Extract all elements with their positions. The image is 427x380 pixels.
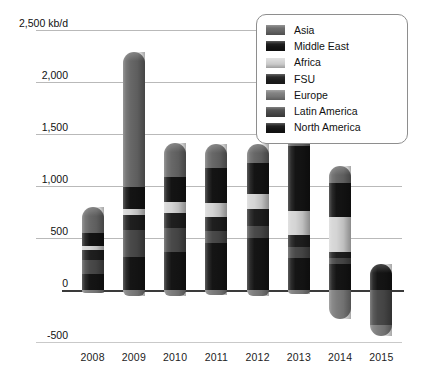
- y-tick-rule: [36, 134, 72, 135]
- legend-item-label: Latin America: [294, 106, 358, 117]
- bar-segment[interactable]: [164, 213, 186, 228]
- legend-swatch-icon: [266, 25, 285, 35]
- bar-segment[interactable]: [288, 235, 310, 247]
- bar-column[interactable]: [164, 30, 186, 342]
- bar-segment[interactable]: [247, 238, 269, 290]
- x-tick-label: 2014: [317, 351, 363, 363]
- bar-segment[interactable]: [82, 274, 104, 290]
- x-tick-label: 2012: [235, 351, 281, 363]
- bar-segment[interactable]: [288, 258, 310, 290]
- bar-segment[interactable]: [247, 163, 269, 194]
- y-tick-label: 500: [2, 225, 68, 237]
- bar-column[interactable]: [123, 30, 145, 342]
- legend-swatch-icon: [266, 123, 285, 133]
- bar-segment[interactable]: [123, 257, 145, 290]
- bar-column[interactable]: [82, 30, 104, 342]
- bar-segment[interactable]: [123, 230, 145, 257]
- legend-item[interactable]: Africa: [266, 55, 398, 71]
- bar-segment[interactable]: [82, 260, 104, 275]
- legend-swatch-icon: [266, 107, 285, 117]
- bar-segment[interactable]: [329, 258, 351, 264]
- bar-segment[interactable]: [370, 264, 392, 290]
- bar-segment[interactable]: [329, 183, 351, 217]
- bar-segment[interactable]: [164, 177, 186, 202]
- legend-item[interactable]: Asia: [266, 22, 398, 38]
- y-tick-rule: [36, 82, 72, 83]
- bar-segment[interactable]: [247, 209, 269, 226]
- bar-segment-negative[interactable]: [123, 290, 145, 296]
- x-tick-label: 2010: [152, 351, 198, 363]
- legend-swatch-icon: [266, 90, 285, 100]
- bar-segment[interactable]: [247, 226, 269, 238]
- gridline: [72, 238, 402, 239]
- bar-segment[interactable]: [123, 52, 145, 187]
- bar-segment[interactable]: [123, 187, 145, 209]
- zero-axis-line: [62, 290, 404, 292]
- bar-segment[interactable]: [329, 217, 351, 251]
- legend-item-label: FSU: [294, 74, 315, 85]
- x-tick-label: 2015: [358, 351, 404, 363]
- y-tick-label: 0: [2, 277, 68, 289]
- bar-segment[interactable]: [82, 250, 104, 259]
- bar-segment-negative[interactable]: [247, 290, 269, 296]
- legend-swatch-icon: [266, 41, 285, 51]
- bar-segment[interactable]: [205, 144, 227, 168]
- y-tick-label: -500: [2, 329, 68, 341]
- bar-segment[interactable]: [205, 217, 227, 231]
- y-tick-label: 1,000: [2, 173, 68, 185]
- legend-item-label: Africa: [294, 57, 321, 68]
- legend-item-label: Asia: [294, 25, 314, 36]
- bar-segment[interactable]: [164, 202, 186, 213]
- x-tick-label: 2008: [70, 351, 116, 363]
- legend-item[interactable]: Europe: [266, 87, 398, 103]
- bar-segment[interactable]: [288, 211, 310, 235]
- x-tick-label: 2009: [111, 351, 157, 363]
- y-tick-label: 2,000: [2, 69, 68, 81]
- y-tick-rule: [36, 186, 72, 187]
- bar-segment[interactable]: [329, 252, 351, 258]
- bar-segment[interactable]: [82, 233, 104, 247]
- legend-swatch-icon: [266, 58, 285, 68]
- bar-segment[interactable]: [205, 168, 227, 202]
- bar-column[interactable]: [205, 30, 227, 342]
- x-tick-label: 2011: [193, 351, 239, 363]
- legend-item[interactable]: Latin America: [266, 103, 398, 119]
- bar-segment[interactable]: [329, 264, 351, 290]
- legend-item[interactable]: Middle East: [266, 38, 398, 54]
- bar-segment-negative[interactable]: [370, 325, 392, 335]
- legend-item[interactable]: FSU: [266, 71, 398, 87]
- bar-segment[interactable]: [164, 228, 186, 252]
- bar-segment[interactable]: [205, 243, 227, 290]
- x-tick-label: 2013: [276, 351, 322, 363]
- gridline: [36, 342, 402, 343]
- bar-segment[interactable]: [123, 215, 145, 230]
- bar-segment[interactable]: [329, 166, 351, 183]
- bar-segment-negative[interactable]: [288, 290, 310, 294]
- bar-segment[interactable]: [288, 247, 310, 257]
- bar-segment-negative[interactable]: [329, 290, 351, 319]
- bar-segment[interactable]: [205, 231, 227, 243]
- y-tick-label: 2,500 kb/d: [2, 17, 68, 29]
- y-tick-rule: [36, 238, 72, 239]
- bar-segment[interactable]: [247, 194, 269, 209]
- bar-segment[interactable]: [205, 203, 227, 218]
- gridline: [72, 186, 402, 187]
- y-tick-label: 1,500: [2, 121, 68, 133]
- bar-segment-negative[interactable]: [82, 290, 104, 293]
- bar-segment[interactable]: [82, 207, 104, 233]
- bar-segment-negative[interactable]: [205, 290, 227, 295]
- stacked-bar-chart: 2,500 kb/d2,0001,5001,0005000-500 200820…: [0, 0, 427, 380]
- bar-segment[interactable]: [247, 144, 269, 163]
- bar-segment[interactable]: [164, 252, 186, 290]
- bar-segment[interactable]: [288, 146, 310, 210]
- bar-segment[interactable]: [164, 143, 186, 176]
- legend-item-label: Europe: [294, 90, 328, 101]
- legend-item[interactable]: North America: [266, 120, 398, 136]
- y-tick-rule: [36, 30, 72, 31]
- legend-item-label: North America: [294, 122, 361, 133]
- bar-segment[interactable]: [123, 209, 145, 215]
- bar-segment[interactable]: [82, 246, 104, 250]
- bar-segment-negative[interactable]: [370, 290, 392, 325]
- legend-swatch-icon: [266, 74, 285, 84]
- bar-segment-negative[interactable]: [164, 290, 186, 296]
